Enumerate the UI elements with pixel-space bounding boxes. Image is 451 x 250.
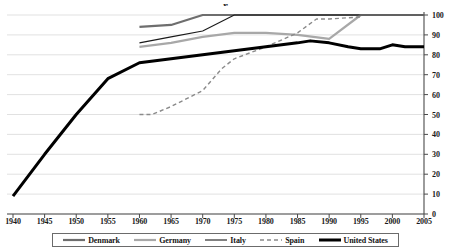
y-tick-label: 100	[432, 11, 444, 20]
legend-item-italy[interactable]: Italy	[205, 236, 246, 245]
x-tick-label: 1975	[226, 217, 242, 226]
legend-swatch-icon	[319, 236, 341, 244]
chart-legend: DenmarkGermanyItalySpainUnited States	[52, 233, 399, 247]
x-tick-label: 2005	[416, 217, 432, 226]
legend-swatch-icon	[260, 236, 282, 244]
x-tick-label: 1940	[5, 217, 21, 226]
y-tick-label: 50	[432, 110, 440, 119]
plot-area	[0, 0, 451, 250]
legend-label: Italy	[230, 236, 246, 245]
legend-item-united-states[interactable]: United States	[319, 236, 388, 245]
series-line-spain	[139, 17, 360, 115]
x-tick-label: 1985	[290, 217, 306, 226]
y-tick-label: 90	[432, 30, 440, 39]
x-tick-label: 1995	[353, 217, 369, 226]
line-chart: r 1009080706050403020100 194019451950195…	[0, 0, 451, 250]
legend-label: Denmark	[88, 236, 120, 245]
series-line-denmark	[139, 15, 424, 27]
x-tick-label: 1980	[258, 217, 274, 226]
legend-label: United States	[344, 236, 388, 245]
x-tick-label: 1945	[37, 217, 53, 226]
y-tick-label: 70	[432, 70, 440, 79]
x-tick-label: 1950	[68, 217, 84, 226]
legend-label: Spain	[285, 236, 304, 245]
gridlines	[7, 15, 424, 214]
x-tick-label: 1955	[100, 217, 116, 226]
y-tick-label: 40	[432, 130, 440, 139]
x-tick-label: 1965	[163, 217, 179, 226]
y-tick-label: 10	[432, 190, 440, 199]
legend-swatch-icon	[134, 236, 156, 244]
series-line-germany	[139, 15, 424, 47]
legend-swatch-icon	[63, 236, 85, 244]
y-tick-label: 0	[432, 210, 436, 219]
x-tick-label: 1970	[195, 217, 211, 226]
legend-item-denmark[interactable]: Denmark	[63, 236, 120, 245]
legend-item-spain[interactable]: Spain	[260, 236, 304, 245]
y-tick-label: 60	[432, 90, 440, 99]
y-tick-label: 20	[432, 170, 440, 179]
y-tick-label: 30	[432, 150, 440, 159]
legend-item-germany[interactable]: Germany	[134, 236, 191, 245]
legend-label: Germany	[159, 236, 191, 245]
x-tick-label: 1960	[132, 217, 148, 226]
x-tick-label: 1990	[321, 217, 337, 226]
series-line-united-states	[13, 41, 424, 196]
legend-swatch-icon	[205, 236, 227, 244]
series-line-italy	[139, 15, 424, 43]
y-tick-label: 80	[432, 50, 440, 59]
series-lines	[13, 15, 424, 196]
x-tick-label: 2000	[385, 217, 401, 226]
axis-lines	[7, 12, 428, 218]
